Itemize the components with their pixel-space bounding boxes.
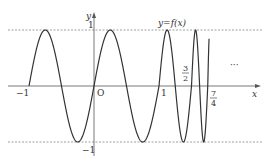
x-axis-arrow-icon bbox=[255, 84, 261, 88]
x-axis-label: x bbox=[252, 89, 257, 99]
tick-label-x-1: 1 bbox=[161, 88, 167, 98]
curve-label: y=f(x) bbox=[157, 18, 187, 28]
frac-3-2-numerator: 3 bbox=[183, 64, 188, 73]
tick-label-y-neg1: −1 bbox=[82, 145, 95, 155]
continuation-ellipsis: ··· bbox=[230, 60, 239, 70]
tick-label-y-1: 1 bbox=[88, 20, 94, 30]
frac-3-2-denominator: 2 bbox=[183, 74, 188, 83]
frac-7-4-denominator: 4 bbox=[211, 99, 216, 108]
frac-7-4-numerator: 7 bbox=[211, 89, 216, 98]
function-graph: y x 1 −1 O −1 1 y=f(x) 3 2 7 4 ··· bbox=[0, 0, 267, 157]
y-axis-arrow-icon bbox=[92, 12, 96, 18]
tick-label-x-neg1: −1 bbox=[16, 88, 29, 98]
origin-label: O bbox=[97, 88, 104, 98]
